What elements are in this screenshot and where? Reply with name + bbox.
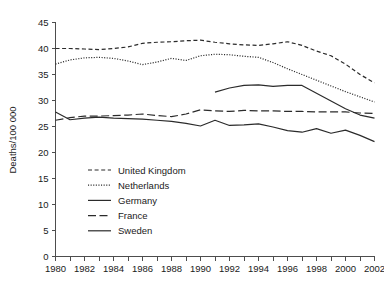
line-chart: 051015202530354045 198019821984198619881… — [0, 0, 384, 284]
y-tick-label: 20 — [38, 147, 49, 158]
x-axis-ticks: 1980198219841986198819901992199419961998… — [45, 257, 384, 275]
series-line-france — [56, 110, 375, 120]
x-tick-label: 1984 — [103, 263, 124, 274]
y-tick-label: 45 — [38, 17, 49, 28]
legend-label-united-kingdom: United Kingdom — [118, 165, 186, 176]
legend-label-germany: Germany — [118, 195, 157, 206]
x-tick-label: 1988 — [161, 263, 182, 274]
x-tick-label: 1996 — [277, 263, 298, 274]
x-tick-label: 1990 — [190, 263, 211, 274]
axes — [56, 23, 375, 257]
chart-canvas: 051015202530354045 198019821984198619881… — [0, 0, 384, 284]
y-tick-label: 10 — [38, 199, 49, 210]
y-tick-label: 30 — [38, 95, 49, 106]
legend-label-sweden: Sweden — [118, 225, 152, 236]
x-tick-label: 1998 — [306, 263, 327, 274]
y-tick-label: 40 — [38, 43, 49, 54]
x-tick-label: 1994 — [248, 263, 269, 274]
x-tick-label: 1980 — [45, 263, 66, 274]
y-tick-label: 5 — [43, 225, 48, 236]
y-tick-label: 35 — [38, 69, 49, 80]
y-axis-title: Deaths/100 000 — [7, 106, 18, 173]
y-tick-label: 25 — [38, 121, 49, 132]
x-tick-label: 2002 — [364, 263, 384, 274]
chart-legend: United KingdomNetherlandsGermanyFranceSw… — [88, 165, 186, 237]
series-lines — [56, 40, 375, 141]
x-tick-label: 1992 — [219, 263, 240, 274]
legend-label-netherlands: Netherlands — [118, 180, 169, 191]
x-tick-label: 1982 — [74, 263, 95, 274]
series-line-united-kingdom — [56, 40, 375, 83]
legend-label-france: France — [118, 210, 148, 221]
series-line-germany — [215, 85, 375, 118]
x-tick-label: 2000 — [335, 263, 356, 274]
y-tick-label: 15 — [38, 173, 49, 184]
series-line-netherlands — [56, 54, 375, 102]
x-tick-label: 1986 — [132, 263, 153, 274]
y-axis-ticks: 051015202530354045 — [38, 17, 56, 262]
y-tick-label: 0 — [43, 251, 48, 262]
